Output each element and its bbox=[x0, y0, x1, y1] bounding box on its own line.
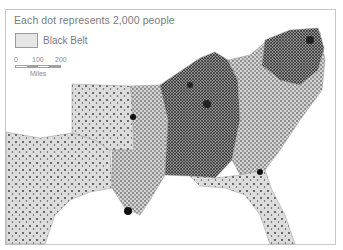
region-florida bbox=[190, 170, 295, 244]
scale-tick-0: 0 bbox=[14, 56, 18, 63]
region-deep-south bbox=[160, 52, 240, 178]
map-title: Each dot represents 2,000 people bbox=[14, 14, 175, 26]
scale-unit: Miles bbox=[30, 70, 46, 77]
cluster-birmingham bbox=[187, 82, 193, 88]
region-texas bbox=[6, 132, 112, 244]
scale-bar bbox=[15, 65, 61, 68]
cluster-memphis bbox=[130, 114, 136, 120]
black-belt-swatch bbox=[15, 33, 38, 48]
scale-tick-100: 100 bbox=[32, 56, 44, 63]
black-belt-label: Black Belt bbox=[43, 35, 87, 46]
cluster-new-orleans bbox=[124, 207, 132, 215]
cluster-charleston bbox=[257, 169, 263, 175]
cluster-atlanta bbox=[203, 100, 211, 108]
cluster-washington bbox=[306, 36, 314, 44]
scale-tick-200: 200 bbox=[55, 56, 67, 63]
